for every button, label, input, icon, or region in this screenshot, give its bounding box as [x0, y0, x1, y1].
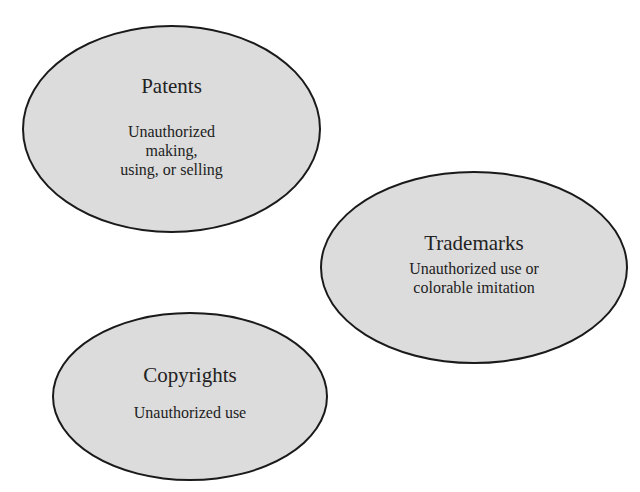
- copyrights-description: Unauthorized use: [134, 403, 246, 422]
- patents-title: Patents: [141, 75, 202, 98]
- patents-description: Unauthorized making, using, or selling: [120, 122, 223, 180]
- patents-ellipse: Patents Unauthorized making, using, or s…: [22, 25, 321, 233]
- trademarks-description: Unauthorized use or colorable imitation: [409, 259, 539, 297]
- copyrights-ellipse: Copyrights Unauthorized use: [52, 312, 328, 481]
- trademarks-title: Trademarks: [424, 232, 524, 255]
- trademarks-ellipse: Trademarks Unauthorized use or colorable…: [320, 171, 628, 364]
- copyrights-title: Copyrights: [143, 364, 236, 387]
